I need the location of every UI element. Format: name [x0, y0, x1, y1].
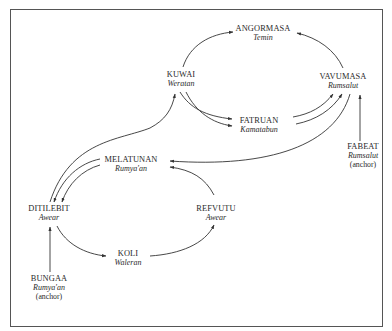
node-melatunan: MELATUNAN Rumya'an [104, 155, 157, 173]
node-name: VAVUMASA [319, 72, 366, 81]
edge-ditilebit-kuwai [50, 94, 175, 202]
node-sub: Rumya'an [104, 164, 157, 173]
node-kuwai: KUWAI Weratan [167, 70, 195, 88]
edge-koli-refvutu [150, 225, 214, 256]
node-sub: Rumsalut [347, 151, 379, 160]
edge-fatruan-vavumasa-2 [296, 94, 342, 124]
node-sub: Kamatabun [240, 125, 279, 134]
node-sub: Awear [196, 213, 235, 222]
node-sub: Rumya'an [31, 283, 67, 292]
node-koli: KOLI Waleran [115, 249, 142, 267]
node-name: DITILEBIT [28, 204, 69, 213]
node-name: KOLI [115, 249, 142, 258]
node-sub: Rumsalut [319, 81, 366, 90]
edge-fatruan-vavumasa-1 [293, 94, 333, 117]
edge-vavumasa-angormasa [297, 33, 343, 68]
node-sub: Weratan [167, 79, 195, 88]
node-refvutu: REFVUTU Awear [196, 204, 235, 222]
node-name: FATRUAN [240, 116, 279, 125]
node-note: (anchor) [347, 160, 379, 169]
node-name: MELATUNAN [104, 155, 157, 164]
node-name: ANGORMASA [236, 24, 291, 33]
node-angormasa: ANGORMASA Temin [236, 24, 291, 42]
edge-melatunan-ditilebit-1 [54, 159, 100, 202]
node-fatruan: FATRUAN Kamatabun [240, 116, 279, 134]
edge-kuwai-angormasa [183, 32, 233, 67]
node-sub: Waleran [115, 258, 142, 267]
edge-kuwai-fatruan-2 [186, 92, 232, 126]
node-name: BUNGAA [31, 274, 67, 283]
node-ditilebit: DITILEBIT Awear [28, 204, 69, 222]
node-name: REFVUTU [196, 204, 235, 213]
node-name: KUWAI [167, 70, 195, 79]
edge-melatunan-ditilebit-2 [62, 165, 100, 202]
edge-refvutu-melatunan [170, 167, 214, 195]
node-vavumasa: VAVUMASA Rumsalut [319, 72, 366, 90]
node-bungaa: BUNGAA Rumya'an (anchor) [31, 274, 67, 301]
node-name: FABEAT [347, 142, 379, 151]
node-note: (anchor) [31, 292, 67, 301]
node-fabeat: FABEAT Rumsalut (anchor) [347, 142, 379, 169]
edge-ditilebit-koli [57, 226, 106, 256]
node-sub: Temin [236, 33, 291, 42]
node-sub: Awear [28, 213, 69, 222]
